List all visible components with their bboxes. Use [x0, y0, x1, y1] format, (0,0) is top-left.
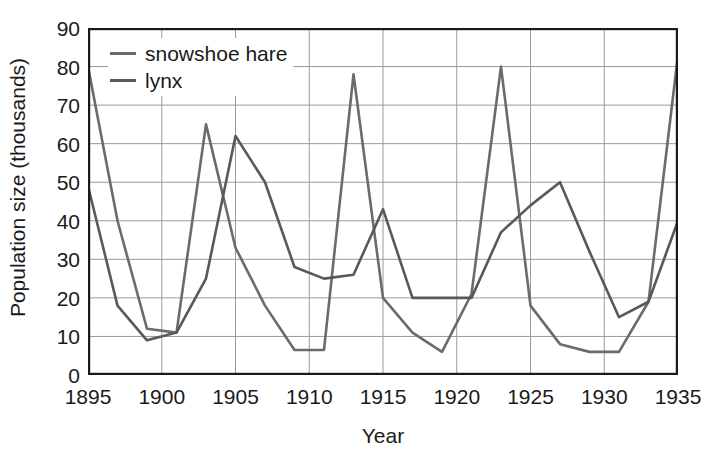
- y-tick-label: 70: [18, 95, 80, 116]
- legend-item-label: lynx: [145, 70, 182, 91]
- legend-line-swatch-icon: [110, 52, 136, 55]
- x-tick-label: 1895: [65, 386, 112, 407]
- y-tick-label: 50: [18, 172, 80, 193]
- x-tick-label: 1905: [212, 386, 259, 407]
- legend-item-label: snowshoe hare: [145, 43, 287, 64]
- y-tick-label: 20: [18, 287, 80, 308]
- legend-line-swatch-icon: [110, 79, 136, 82]
- x-tick-label: 1925: [507, 386, 554, 407]
- x-axis-tick-labels: 189519001905191019151920192519301935: [0, 386, 726, 414]
- y-tick-label: 0: [18, 365, 80, 386]
- x-tick-label: 1920: [433, 386, 480, 407]
- y-tick-label: 30: [18, 249, 80, 270]
- y-tick-label: 90: [18, 18, 80, 39]
- x-tick-label: 1930: [581, 386, 628, 407]
- legend-item: snowshoe hare: [110, 40, 287, 67]
- line-chart-figure: Population size (thousands) 010203040506…: [0, 0, 726, 466]
- y-tick-label: 80: [18, 56, 80, 77]
- x-tick-label: 1935: [655, 386, 702, 407]
- x-tick-label: 1910: [286, 386, 333, 407]
- x-axis-title: Year: [88, 424, 678, 448]
- legend-item: lynx: [110, 67, 287, 94]
- x-tick-label: 1900: [138, 386, 185, 407]
- y-tick-label: 10: [18, 326, 80, 347]
- y-tick-label: 60: [18, 133, 80, 154]
- chart-legend: snowshoe harelynx: [108, 38, 293, 96]
- x-tick-label: 1915: [360, 386, 407, 407]
- y-tick-label: 40: [18, 210, 80, 231]
